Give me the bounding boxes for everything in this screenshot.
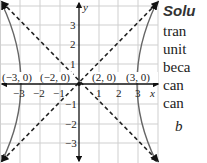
- text-line: can: [163, 94, 184, 112]
- x-tick: −1: [53, 87, 65, 99]
- point-label: (−3, 0): [2, 71, 32, 84]
- text-line: beca: [163, 58, 190, 76]
- x-tick: −2: [33, 87, 45, 99]
- text-line: tran: [163, 22, 186, 40]
- origin-dot: [77, 82, 81, 86]
- solution-heading: Solu: [163, 2, 196, 20]
- point-label: (−2, 0): [40, 71, 70, 84]
- x-tick: 3: [135, 87, 141, 99]
- y-tick: 1: [70, 58, 76, 70]
- x-tick: −3: [13, 87, 25, 99]
- solution-text: Solu tran unit beca can can b: [163, 0, 207, 163]
- x-axis-label: x: [149, 87, 155, 99]
- x-tick: 2: [116, 87, 122, 99]
- y-tick: −3: [65, 137, 77, 149]
- y-tick: −2: [65, 118, 77, 130]
- y-tick: −1: [65, 98, 77, 110]
- text-line: unit: [163, 40, 186, 58]
- text-line: can: [163, 76, 184, 94]
- hyperbola-graph: y x −3 −2 −1 1 2 3 3 2 1 −1 −2 −3 (−3, 0…: [0, 0, 160, 163]
- y-tick: 2: [70, 38, 76, 50]
- equation-fragment: b: [175, 117, 183, 135]
- point-label: (3, 0): [126, 71, 150, 84]
- point-label: (2, 0): [92, 71, 116, 84]
- x-tick: 1: [96, 87, 102, 99]
- y-axis-label: y: [82, 1, 88, 13]
- y-tick: 3: [70, 19, 76, 31]
